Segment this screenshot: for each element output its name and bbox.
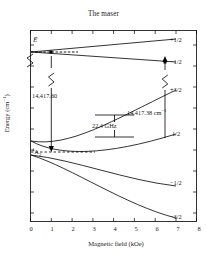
- axis-break-symbol-left-arrow: [49, 73, 55, 86]
- level-line-a-plus-three-half: [31, 90, 176, 142]
- plot-frame: [31, 31, 197, 222]
- origin-marker-excited: [50, 51, 53, 54]
- y-axis-ticks: [31, 45, 197, 213]
- level-line-a-minus-half: [31, 155, 176, 186]
- energy-level-diagram: The maser Energy (cm−1) Magnetic field (…: [0, 0, 207, 259]
- level-line-e-minus-half: [31, 52, 176, 62]
- x-axis-ticks: [31, 31, 197, 222]
- axis-break-symbol: [27, 54, 33, 67]
- level-line-e-plus-half: [31, 39, 176, 52]
- axis-break-symbol-right-arrow: [162, 75, 168, 88]
- origin-marker-right: [164, 61, 167, 64]
- level-line-a-minus-three-half: [31, 155, 176, 218]
- diagram-canvas: [0, 0, 207, 259]
